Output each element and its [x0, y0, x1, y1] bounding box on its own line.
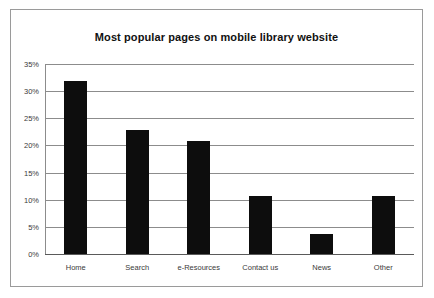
gridline: [45, 64, 414, 65]
gridline: [45, 227, 414, 228]
bar: [126, 130, 149, 254]
x-axis-tick-label: Home: [66, 263, 86, 272]
x-axis-tick-label: Other: [374, 263, 393, 272]
gridline: [45, 173, 414, 174]
gridline: [45, 118, 414, 119]
x-axis-tick-label: Search: [125, 263, 149, 272]
bar: [64, 81, 87, 254]
y-axis-line: [45, 64, 46, 254]
y-axis-tick-label: 20%: [24, 141, 39, 150]
y-axis-tick-label: 5%: [28, 222, 39, 231]
y-axis-tick-label: 25%: [24, 114, 39, 123]
gridline: [45, 145, 414, 146]
x-axis-tick-label: e-Resources: [177, 263, 220, 272]
gridline: [45, 91, 414, 92]
bar: [249, 196, 272, 254]
y-axis-tick-label: 0%: [28, 250, 39, 259]
bar: [372, 196, 395, 254]
y-axis-tick-label: 15%: [24, 168, 39, 177]
axis-baseline: [45, 254, 414, 255]
x-axis-tick-label: Contact us: [242, 263, 278, 272]
gridline: [45, 200, 414, 201]
bar: [310, 234, 333, 254]
y-axis-tick-label: 35%: [24, 60, 39, 69]
bar: [187, 141, 210, 254]
y-axis-tick-label: 10%: [24, 195, 39, 204]
plot-area: 0%5%10%15%20%25%30%35% HomeSearche-Resou…: [45, 64, 414, 254]
chart-title: Most popular pages on mobile library web…: [11, 31, 422, 43]
chart-figure: Most popular pages on mobile library web…: [10, 9, 423, 287]
y-axis-tick-label: 30%: [24, 87, 39, 96]
x-axis-tick-label: News: [312, 263, 331, 272]
